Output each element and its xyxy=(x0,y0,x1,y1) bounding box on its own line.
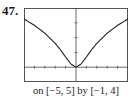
function-plot xyxy=(24,8,128,82)
graph-window xyxy=(24,8,128,82)
window-caption: on [−5, 5] by [−1, 4] xyxy=(24,85,128,96)
problem-number: 47. xyxy=(2,3,18,19)
